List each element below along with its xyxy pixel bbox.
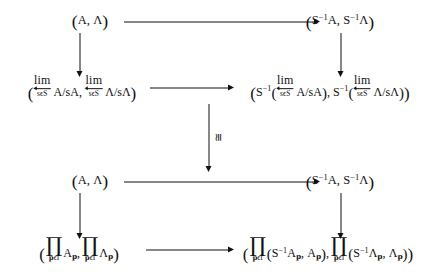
arrow-head: [205, 166, 211, 172]
symbol-A: A: [287, 246, 296, 260]
product-symbol: ∏pϵI: [82, 237, 98, 262]
limit-index: sϵS: [277, 90, 294, 97]
comma: ,: [337, 13, 341, 27]
comma: ,: [301, 246, 305, 260]
symbol-A: A: [78, 13, 87, 27]
frak-p: p: [334, 253, 339, 262]
close-paren: ): [368, 12, 374, 32]
node-r3c1: (A, Λ): [72, 173, 108, 191]
left-arrow-underline-icon: [86, 87, 103, 90]
node-r2c1: (limsϵS A/sA, limsϵS Λ/sΛ): [28, 74, 137, 102]
comma: ,: [77, 246, 81, 260]
close-paren: ): [408, 245, 414, 264]
comma: ,: [87, 173, 91, 187]
left-arrow-underline-icon: [354, 87, 371, 90]
comma: ,: [337, 173, 341, 187]
arrow-row3-horizontal: [124, 178, 320, 187]
exponent-minus-one: −1: [350, 12, 359, 22]
quotient-Lambda-sLambda: Λ/sΛ: [105, 85, 130, 99]
comma: ,: [327, 85, 331, 99]
symbol-Lambda: Λ: [369, 246, 378, 260]
lim-label: lim: [354, 74, 371, 86]
close-paren: ): [368, 172, 374, 192]
arrow-head: [314, 178, 320, 184]
arrow-right-r1-r2: [337, 33, 346, 77]
lim-label: lim: [34, 74, 51, 86]
symbol-A: A: [328, 173, 337, 187]
limit-index: sϵS: [34, 90, 51, 97]
comma: ,: [79, 85, 83, 99]
arrow-shaft: [80, 193, 81, 234]
open-paren: (: [39, 245, 45, 264]
quotient-Lambda-sLambda: Λ/sΛ: [374, 85, 399, 99]
frak-p: p: [49, 253, 54, 262]
comma: ,: [326, 246, 330, 260]
left-arrow-underline-icon: [34, 87, 51, 90]
arrow-shaft: [341, 33, 342, 72]
node-r2c2: (S−1(limsϵS A/sA), S−1(limsϵS Λ/sΛ)): [250, 74, 409, 102]
symbol-A: A: [78, 173, 87, 187]
arrow-bottom-horizontal: [146, 246, 234, 255]
arrow-shaft: [146, 250, 229, 251]
inverse-limit: limsϵS: [277, 74, 294, 97]
close-paren: ): [102, 11, 108, 31]
prod-glyph: ∏: [46, 237, 62, 254]
arrow-shaft: [80, 33, 81, 72]
node-r4c2: (∏pϵI(S−1Ap, Ap),∏pϵI(S−1Λp, Λp)): [243, 237, 414, 263]
node-r4c1: (∏pϵIAp,∏pϵIΛp): [39, 237, 119, 263]
symbol-A: A: [307, 246, 316, 260]
prod-glyph: ∏: [249, 237, 265, 254]
symbol-Lambda: Λ: [99, 246, 108, 260]
open-paren: (: [243, 245, 249, 264]
inverse-limit: limsϵS: [86, 74, 103, 97]
prod-glyph: ∏: [82, 237, 98, 254]
inverse-limit: limsϵS: [34, 74, 51, 97]
symbol-A: A: [63, 246, 72, 260]
inverse-limit: limsϵS: [354, 74, 371, 97]
frak-p: p: [85, 253, 90, 262]
arrow-shaft: [124, 22, 315, 23]
arrow-shaft: [124, 182, 315, 183]
close-paren: ): [404, 84, 410, 103]
product-symbol: ∏pϵI: [249, 237, 265, 262]
arrow-shaft: [150, 88, 229, 89]
prod-glyph: ∏: [331, 237, 347, 254]
close-paren: ): [113, 245, 119, 264]
exponent-minus-one: −1: [319, 12, 328, 22]
frak-p: p: [252, 253, 257, 262]
quotient-A-sA: A/sA: [297, 85, 322, 99]
exponent-minus-one: −1: [360, 246, 369, 255]
commutative-diagram: (A, Λ) (S−1A, S−1Λ) (limsϵS A/sA, limsϵS…: [0, 0, 438, 279]
limit-index: sϵS: [354, 90, 371, 97]
close-paren: ): [102, 171, 108, 191]
iso-label: ≅: [213, 133, 224, 142]
arrow-head: [314, 18, 320, 24]
symbol-S: S: [272, 246, 279, 260]
product-symbol: ∏pϵI: [46, 237, 62, 262]
limit-index: sϵS: [86, 90, 103, 97]
arrow-head: [228, 246, 234, 252]
exponent-minus-one: −1: [340, 84, 349, 93]
comma: ,: [87, 13, 91, 27]
exponent-minus-one: −1: [263, 84, 272, 93]
node-r1c1: (A, Λ): [72, 13, 108, 31]
lim-label: lim: [86, 74, 103, 86]
symbol-A: A: [328, 13, 337, 27]
close-paren: ): [131, 84, 137, 103]
comma: ,: [383, 246, 387, 260]
exponent-minus-one: −1: [319, 172, 328, 182]
arrow-top-horizontal: [124, 18, 320, 27]
symbol-Lambda: Λ: [389, 246, 398, 260]
lim-label: lim: [277, 74, 294, 86]
exponent-minus-one: −1: [350, 172, 359, 182]
arrow-shaft: [209, 104, 210, 167]
arrow-shaft: [341, 193, 342, 234]
product-symbol: ∏pϵI: [331, 237, 347, 262]
arrow-head: [228, 84, 234, 90]
arrow-left-r1-r2: [76, 33, 85, 77]
arrow-row2-horizontal: [150, 84, 234, 93]
left-arrow-underline-icon: [277, 87, 294, 90]
quotient-A-sA: A/sA: [54, 85, 79, 99]
